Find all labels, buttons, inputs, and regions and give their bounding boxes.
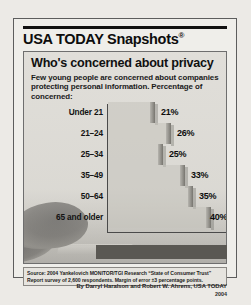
chart-row: 65 and older 40%: [24, 207, 227, 228]
step-plateau: [108, 165, 180, 186]
category-label: 25–34: [24, 144, 103, 165]
source-shadow-bar: [96, 245, 227, 259]
masthead-title: USA TODAY Snapshots®: [23, 31, 227, 48]
masthead-title-text: USA TODAY Snapshots: [23, 31, 178, 47]
chart-row: 35–49 33%: [24, 165, 227, 186]
chart-title: Who's concerned about privacy: [31, 57, 221, 71]
source-line-1: Source: 2004 Yankelovich MONITOR/TGI Res…: [27, 270, 223, 277]
category-label: 21–24: [24, 123, 103, 144]
headline-block: Who's concerned about privacy Few young …: [31, 57, 221, 101]
value-label: 35%: [199, 186, 216, 207]
chart-panel: Who's concerned about privacy Few young …: [23, 51, 227, 264]
step-chart: Under 21 21% 21–24 26% 25–34 25%: [24, 102, 227, 238]
byline: By Darryl Haralson and Robert W. Ahrens,…: [23, 283, 227, 297]
value-label: 40%: [210, 207, 227, 228]
step-plateau: [108, 102, 150, 123]
category-label: 35–49: [24, 165, 103, 186]
snapshot-page: USA TODAY Snapshots® Who's concerned abo…: [0, 0, 251, 305]
masthead: USA TODAY Snapshots®: [23, 26, 227, 48]
chart-row: 21–24 26%: [24, 123, 227, 144]
registered-trademark-icon: ®: [178, 31, 184, 40]
step-edge: [158, 144, 163, 165]
step-edge: [150, 102, 155, 123]
category-label: Under 21: [24, 102, 103, 123]
chart-subtitle: Few young people are concerned about com…: [31, 73, 221, 101]
chart-row: Under 21 21%: [24, 102, 227, 123]
step-edge: [180, 165, 185, 186]
chart-row: 25–34 25%: [24, 144, 227, 165]
masthead-rule: [23, 26, 227, 29]
byline-authors: By Darryl Haralson and Robert W. Ahrens,…: [23, 283, 227, 291]
step-edge: [166, 123, 171, 144]
value-label: 25%: [169, 144, 186, 165]
step-plateau: [108, 186, 188, 207]
step-plateau: [108, 144, 158, 165]
value-label: 26%: [177, 123, 194, 144]
chart-baseline: [107, 232, 227, 233]
snapshot-frame: USA TODAY Snapshots® Who's concerned abo…: [13, 18, 237, 278]
chart-row: 50–64 35%: [24, 186, 227, 207]
category-label: 65 and older: [24, 207, 103, 228]
value-label: 21%: [161, 102, 178, 123]
step-plateau: [108, 123, 166, 144]
step-edge: [188, 186, 193, 207]
byline-year: 2004: [23, 291, 227, 297]
step-plateau: [108, 207, 206, 228]
value-label: 33%: [191, 165, 208, 186]
category-label: 50–64: [24, 186, 103, 207]
